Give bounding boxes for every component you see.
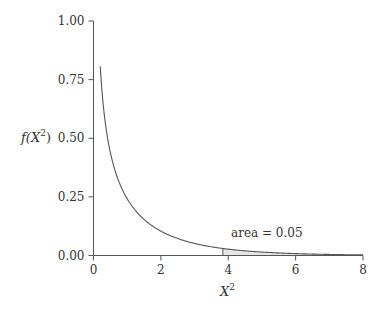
y-tick-label: 0.50 <box>58 131 85 145</box>
x-tick-label: 8 <box>359 263 367 277</box>
x-tick-label: 6 <box>292 263 300 277</box>
x-tick-label: 2 <box>157 263 165 277</box>
y-axis-label-suffix: ) <box>46 130 51 145</box>
y-tick-label: 0.25 <box>58 190 85 204</box>
y-ticks: 0.000.250.500.751.00 <box>58 14 94 263</box>
x-axis-label-sup: 2 <box>229 282 235 292</box>
x-tick-label: 4 <box>224 263 232 277</box>
y-axis-label-prefix: f(X <box>20 130 41 145</box>
y-tick-label: 0.75 <box>58 73 85 87</box>
x-axis-label: X2 <box>219 282 235 299</box>
y-tick-label: 1.00 <box>58 14 85 28</box>
y-tick-label: 0.00 <box>58 249 85 263</box>
x-ticks: 02468 <box>90 256 367 277</box>
x-tick-label: 0 <box>90 263 98 277</box>
y-axis-label: f(X2) <box>20 128 51 145</box>
area-annotation: area = 0.05 <box>231 226 303 240</box>
chi-square-chart: 0.000.250.500.751.00 02468 area = 0.05 X… <box>0 0 385 315</box>
